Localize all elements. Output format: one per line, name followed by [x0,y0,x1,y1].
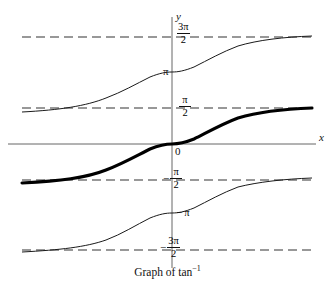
tick-denominator-negative-pi-over-two: 2 [173,179,180,190]
x-axis-label: x [319,132,324,143]
tick-denominator-pi-over-two: 2 [181,107,188,118]
tick-label-three-pi-over-two: 3π 2 [176,22,190,45]
tick-sign-negative-pi: − [176,207,182,219]
tick-numerator-negative-three-pi-over-two: 3π [167,236,180,247]
tick-label-negative-pi: − π [176,207,191,219]
tick-denominator-three-pi-over-two: 2 [180,34,187,45]
tick-label-pi: π [163,66,169,77]
figure-caption: Graph of tan−1 [0,264,335,278]
caption-exponent: −1 [192,264,201,273]
tick-text-negative-pi: π [183,208,190,219]
tick-numerator-three-pi-over-two: 3π [177,22,190,33]
tick-label-negative-pi-over-two: − π 2 [163,167,182,190]
tick-sign-negative-pi-over-two: − [163,173,169,185]
caption-text: Graph of tan [134,266,192,278]
tick-denominator-negative-three-pi-over-two: 2 [170,248,177,259]
tick-numerator-negative-pi-over-two: π [173,167,180,178]
origin-label: 0 [175,146,181,157]
tick-sign-negative-three-pi-over-two: − [160,242,166,254]
tick-label-negative-three-pi-over-two: − 3π 2 [160,236,180,259]
tick-numerator-pi-over-two: π [181,95,188,106]
arctan-graph-figure: y x 3π 2 π π 2 0 − π 2 − π [0,0,335,286]
tick-label-pi-over-two: π 2 [178,95,191,118]
